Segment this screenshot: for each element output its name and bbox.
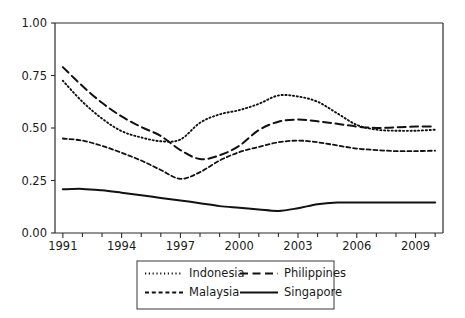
y-tick-label: 1.00	[21, 16, 47, 30]
chart-legend: IndonesiaPhilippinesMalaysiaSingapore	[137, 261, 346, 309]
y-tick-label: 0.25	[21, 174, 47, 188]
y-tick-label: 0.50	[21, 121, 47, 135]
x-tick-label: 1997	[166, 239, 195, 253]
y-tick-label: 0.00	[21, 226, 47, 240]
x-tick-label: 2003	[283, 239, 312, 253]
chart-canvas: 0.000.250.500.751.00 1991199419972000200…	[0, 0, 465, 318]
legend-label-singapore: Singapore	[284, 285, 342, 299]
y-tick-label: 0.75	[21, 69, 47, 83]
legend-label-indonesia: Indonesia	[189, 266, 245, 280]
x-tick-label: 1994	[107, 239, 136, 253]
x-tick-label: 2006	[342, 239, 371, 253]
legend-label-malaysia: Malaysia	[189, 285, 239, 299]
legend-label-philippines: Philippines	[284, 266, 346, 280]
x-tick-label: 2009	[401, 239, 430, 253]
line-chart: 0.000.250.500.751.00 1991199419972000200…	[0, 0, 465, 318]
x-tick-label: 1991	[48, 239, 77, 253]
x-tick-label: 2000	[225, 239, 254, 253]
